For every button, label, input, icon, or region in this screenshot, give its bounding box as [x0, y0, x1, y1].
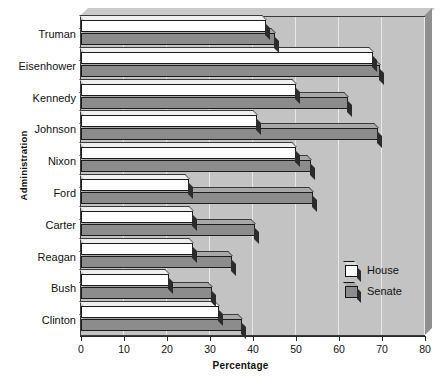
y-tick-label-nixon: Nixon — [4, 156, 76, 167]
bar-kennedy-senate — [81, 97, 348, 109]
bar-carter-house — [81, 211, 193, 223]
bar-reagan-senate — [81, 256, 232, 268]
y-tick-label-bush: Bush — [4, 283, 76, 294]
plot-depth-right — [424, 8, 432, 336]
bar-ford-house — [81, 179, 189, 191]
x-tick-label-10: 10 — [109, 343, 139, 355]
bar-bush-senate — [81, 287, 212, 299]
y-tick-label-reagan: Reagan — [4, 252, 76, 263]
chart-root: Administration TrumanEisenhowerKennedyJo… — [0, 0, 441, 383]
bar-johnson-senate — [81, 128, 378, 140]
x-tick-20 — [167, 336, 168, 341]
y-axis-tick-labels: TrumanEisenhowerKennedyJohnsonNixonFordC… — [3, 0, 76, 340]
bar-eisenhower-senate — [81, 65, 380, 77]
bar-truman-house — [81, 20, 266, 32]
x-tick-label-50: 50 — [281, 343, 311, 355]
x-axis-title-text: Percentage — [213, 360, 269, 371]
x-tick-label-40: 40 — [238, 343, 268, 355]
x-tick-0 — [81, 336, 82, 341]
y-tick-label-johnson: Johnson — [4, 124, 76, 135]
y-tick-label-kennedy: Kennedy — [4, 93, 76, 104]
x-tick-30 — [210, 336, 211, 341]
x-tick-label-60: 60 — [324, 343, 354, 355]
legend-label-senate: Senate — [367, 285, 402, 297]
x-tick-50 — [296, 336, 297, 341]
x-tick-label-70: 70 — [367, 343, 397, 355]
x-tick-label-30: 30 — [195, 343, 225, 355]
y-tick-label-ford: Ford — [4, 188, 76, 199]
bar-nixon-house — [81, 147, 296, 159]
x-axis-title: Percentage — [0, 360, 441, 371]
y-tick-label-eisenhower: Eisenhower — [4, 61, 76, 72]
bar-reagan-house — [81, 243, 193, 255]
legend-label-house: House — [367, 264, 399, 276]
x-tick-70 — [382, 336, 383, 341]
bar-kennedy-house — [81, 84, 296, 96]
x-tick-label-20: 20 — [152, 343, 182, 355]
y-tick-label-clinton: Clinton — [4, 315, 76, 326]
x-tick-label-80: 80 — [410, 343, 440, 355]
bar-carter-senate — [81, 224, 255, 236]
x-tick-80 — [425, 336, 426, 341]
bar-truman-senate — [81, 33, 275, 45]
x-tick-10 — [124, 336, 125, 341]
x-tick-40 — [253, 336, 254, 341]
house-swatch-icon — [345, 265, 358, 277]
bar-eisenhower-house — [81, 52, 373, 64]
bar-clinton-house — [81, 306, 219, 318]
y-tick-label-carter: Carter — [4, 220, 76, 231]
gridline-80 — [424, 17, 425, 335]
bar-bush-house — [81, 274, 169, 286]
x-tick-label-0: 0 — [66, 343, 96, 355]
y-tick-label-truman: Truman — [4, 29, 76, 40]
bar-ford-senate — [81, 192, 313, 204]
senate-swatch-icon — [345, 286, 358, 298]
x-tick-60 — [339, 336, 340, 341]
bar-johnson-house — [81, 115, 257, 127]
bar-nixon-senate — [81, 160, 311, 172]
